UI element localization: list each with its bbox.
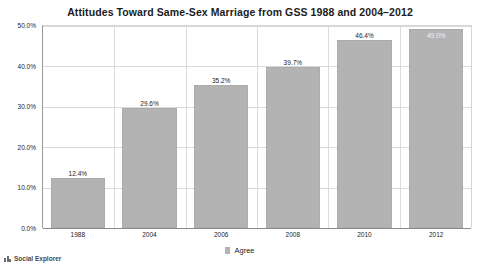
y-axis-tick-label: 40.0% (18, 62, 36, 69)
bars-layer: 12.4%29.6%35.2%39.7%46.4%49.0% (42, 25, 472, 228)
attribution-text: Social Explorer (14, 255, 61, 262)
bar-value-label-2004: 29.6% (114, 100, 186, 107)
y-axis-tick-label: 30.0% (18, 103, 36, 110)
chart-legend: Agree (0, 246, 480, 255)
legend-label-agree: Agree (234, 246, 254, 255)
bar-2008[interactable] (266, 67, 320, 228)
x-axis-tick-label-1988: 1988 (42, 231, 114, 238)
bar-2006[interactable] (194, 85, 248, 228)
chart-container: Attitudes Toward Same-Sex Marriage from … (0, 0, 480, 269)
bar-slot-2010: 46.4% (329, 25, 401, 228)
bar-value-label-2010: 46.4% (329, 32, 401, 39)
y-axis-tick-label: 0.0% (21, 225, 36, 232)
bar-slot-2004: 29.6% (114, 25, 186, 228)
bar-slot-2008: 39.7% (257, 25, 329, 228)
bar-slot-2006: 35.2% (185, 25, 257, 228)
bar-value-label-2008: 39.7% (257, 59, 329, 66)
x-axis: 198820042006200820102012 (42, 229, 472, 243)
y-axis-tick-label: 20.0% (18, 143, 36, 150)
bar-value-label-1988: 12.4% (42, 170, 114, 177)
x-axis-tick-label-2006: 2006 (185, 231, 257, 238)
bar-slot-1988: 12.4% (42, 25, 114, 228)
legend-swatch-agree (225, 247, 230, 254)
bar-value-label-2012: 49.0% (400, 32, 472, 39)
x-axis-tick-label-2010: 2010 (329, 231, 401, 238)
bar-2010[interactable] (337, 40, 391, 228)
y-axis-tick-label: 10.0% (18, 184, 36, 191)
bar-1988[interactable] (51, 178, 105, 228)
attribution: Social Explorer (4, 255, 61, 262)
y-axis: 0.0%10.0%20.0%30.0%40.0%50.0% (0, 25, 38, 228)
social-explorer-logo-icon (4, 255, 11, 262)
x-axis-tick-label-2008: 2008 (257, 231, 329, 238)
bar-2004[interactable] (122, 108, 176, 228)
x-axis-tick-label-2004: 2004 (114, 231, 186, 238)
bar-slot-2012: 49.0% (400, 25, 472, 228)
y-axis-tick-label: 50.0% (18, 22, 36, 29)
bar-value-label-2006: 35.2% (185, 77, 257, 84)
bar-2012[interactable] (409, 29, 463, 228)
x-axis-tick-label-2012: 2012 (400, 231, 472, 238)
chart-title: Attitudes Toward Same-Sex Marriage from … (0, 6, 480, 18)
